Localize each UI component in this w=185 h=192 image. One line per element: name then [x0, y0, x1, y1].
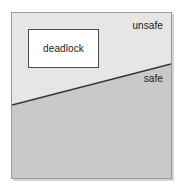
- figure-root: deadlock unsafe safe: [0, 0, 185, 192]
- unsafe-region-label: unsafe: [132, 21, 163, 31]
- deadlock-label: deadlock: [43, 44, 84, 54]
- state-space-frame: deadlock unsafe safe: [11, 12, 172, 179]
- safe-region-label: safe: [144, 74, 163, 84]
- deadlock-region-box: deadlock: [28, 29, 99, 68]
